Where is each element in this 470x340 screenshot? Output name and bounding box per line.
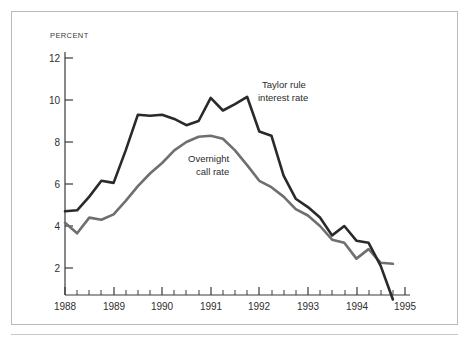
x-tick-label: 1988 bbox=[54, 301, 77, 312]
y-tick-label: 8 bbox=[54, 137, 60, 148]
y-tick-label: 6 bbox=[54, 179, 60, 190]
x-axis-minor-ticks bbox=[77, 290, 393, 295]
line-chart-canvas: PERCENT 12 10 8 6 4 2 1988 1989 1990 199… bbox=[0, 0, 470, 340]
x-tick-label: 1991 bbox=[200, 301, 223, 312]
y-axis-ticks bbox=[65, 58, 73, 268]
x-tick-label: 1989 bbox=[103, 301, 126, 312]
taylor-rule-interest-rate-line bbox=[65, 97, 393, 300]
y-tick-label: 4 bbox=[54, 221, 60, 232]
taylor-rule-label-line2: interest rate bbox=[258, 92, 308, 103]
x-axis-tick-labels: 1988 1989 1990 1991 1992 1993 1994 1995 bbox=[54, 301, 417, 312]
y-tick-label: 12 bbox=[49, 53, 61, 64]
taylor-rule-annotation: Taylor rule interest rate bbox=[258, 79, 308, 103]
overnight-call-rate-label-line2: call rate bbox=[196, 166, 229, 177]
x-tick-label: 1995 bbox=[394, 301, 417, 312]
x-axis-group bbox=[65, 287, 410, 295]
y-axis-group bbox=[65, 52, 73, 295]
x-tick-label: 1994 bbox=[346, 301, 369, 312]
y-axis-unit-label: PERCENT bbox=[50, 31, 89, 40]
series-taylor-rule-interest-rate bbox=[65, 97, 393, 300]
overnight-call-rate-label-line1: Overnight bbox=[188, 153, 230, 164]
x-tick-label: 1990 bbox=[151, 301, 174, 312]
y-axis-tick-labels: 12 10 8 6 4 2 bbox=[49, 53, 61, 274]
taylor-rule-label-line1: Taylor rule bbox=[262, 79, 306, 90]
chart-figure: PERCENT 12 10 8 6 4 2 1988 1989 1990 199… bbox=[0, 0, 470, 340]
y-tick-label: 10 bbox=[49, 95, 61, 106]
x-tick-label: 1993 bbox=[297, 301, 320, 312]
y-tick-label: 2 bbox=[54, 263, 60, 274]
overnight-call-rate-annotation: Overnight call rate bbox=[188, 153, 230, 177]
x-tick-label: 1992 bbox=[248, 301, 271, 312]
